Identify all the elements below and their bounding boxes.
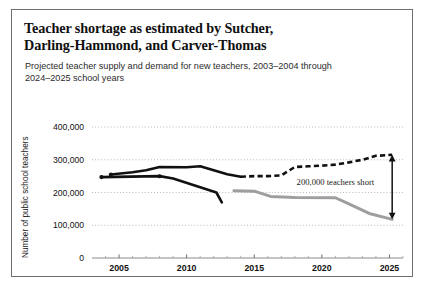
series-line [111, 166, 241, 176]
y-tick-label: 300,000 [53, 155, 84, 165]
y-tick-label: 100,000 [53, 220, 84, 230]
series-point [158, 174, 162, 178]
chart-plot-area: 0100,000200,000300,000400,000 2005201020… [12, 106, 414, 276]
figure-panel: Teacher shortage as estimated by Sutcher… [11, 9, 413, 277]
y-tick-label: 400,000 [53, 122, 84, 132]
y-axis-label: Number of public school teachers [21, 136, 30, 258]
x-axis [92, 254, 403, 258]
series-line [241, 155, 392, 177]
x-tick-label: 2010 [177, 263, 197, 273]
y-tick-label: 0 [79, 253, 84, 263]
x-tick-label: 2025 [380, 263, 400, 273]
x-tick-label: 2015 [244, 263, 264, 273]
x-axis-tick-labels: 20052010201520202025 [109, 263, 399, 273]
series-point [99, 175, 103, 179]
chart-subtitle: Projected teacher supply and demand for … [25, 61, 357, 84]
y-tick-label: 200,000 [53, 188, 84, 198]
line-chart: 0100,000200,000300,000400,000 2005201020… [12, 106, 414, 276]
series-line [101, 176, 221, 202]
x-tick-label: 2020 [312, 263, 332, 273]
chart-title-line-1: Teacher shortage as estimated by Sutcher… [24, 20, 354, 37]
series-line [234, 191, 392, 220]
shortage-annotation-label: 200,000 teachers short [297, 177, 375, 187]
chart-title: Teacher shortage as estimated by Sutcher… [24, 20, 354, 53]
y-axis-tick-labels: 0100,000200,000300,000400,000 [53, 122, 84, 263]
annotation-layer: 200,000 teachers short [297, 155, 396, 220]
chart-title-line-2: Darling-Hammond, and Carver-Thomas [24, 37, 354, 54]
x-tick-label: 2005 [109, 263, 129, 273]
